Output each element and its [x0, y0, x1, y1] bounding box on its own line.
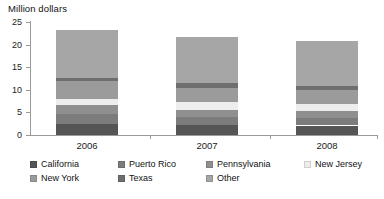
y-axis-tick [26, 67, 30, 68]
bar-segment-new-york [296, 90, 358, 104]
bar-segment-other [296, 41, 358, 86]
y-axis-tick [26, 135, 30, 136]
legend-label: Other [217, 173, 240, 183]
y-axis-tick-label: 0 [0, 130, 22, 140]
x-axis-category-label: 2006 [56, 140, 118, 151]
bar-segment-texas [56, 78, 118, 82]
bar-segment-new-york [176, 88, 238, 102]
legend-swatch-icon [304, 161, 311, 168]
y-axis-tick [26, 45, 30, 46]
bar-segment-new-jersey [176, 102, 238, 110]
bar-segment-puerto-rico [56, 114, 118, 124]
bar-segment-puerto-rico [296, 118, 358, 126]
bar-segment-new-jersey [56, 99, 118, 105]
legend-item-new-jersey[interactable]: New Jersey [304, 157, 380, 171]
bar-segment-california [296, 126, 358, 135]
bar-segment-other [176, 37, 238, 84]
y-axis-line [30, 21, 31, 136]
stacked-bar-chart: Million dollars 2520151050 200620072008 … [0, 0, 384, 199]
legend-item-puerto-rico[interactable]: Puerto Rico [118, 157, 206, 171]
bar-segment-texas [296, 86, 358, 90]
legend-label: California [41, 159, 79, 169]
bar-segment-pennsylvania [296, 111, 358, 118]
legend-item-texas[interactable]: Texas [118, 171, 206, 185]
chart-legend: CaliforniaPuerto RicoPennsylvaniaNew Jer… [30, 157, 380, 185]
legend-swatch-icon [206, 175, 213, 182]
legend-label: Puerto Rico [129, 159, 176, 169]
bar-column [176, 22, 238, 135]
legend-label: Pennsylvania [217, 159, 271, 169]
legend-label: New York [41, 173, 79, 183]
legend-swatch-icon [30, 161, 37, 168]
bar-segment-new-jersey [296, 104, 358, 110]
legend-label: Texas [129, 173, 153, 183]
y-axis-tick-label: 5 [0, 107, 22, 117]
bar-segment-other [56, 30, 118, 78]
bar-segment-pennsylvania [176, 110, 238, 117]
bar-segment-puerto-rico [176, 117, 238, 125]
y-axis-tick [26, 112, 30, 113]
legend-item-pennsylvania[interactable]: Pennsylvania [206, 157, 304, 171]
legend-swatch-icon [118, 161, 125, 168]
bar-segment-new-york [56, 81, 118, 99]
legend-label: New Jersey [315, 159, 362, 169]
x-axis-separator [150, 135, 151, 139]
x-axis-category-label: 2008 [296, 140, 358, 151]
y-axis-tick-label: 15 [0, 62, 22, 72]
chart-axis-title: Million dollars [8, 3, 67, 14]
legend-item-california[interactable]: California [30, 157, 118, 171]
legend-item-other[interactable]: Other [206, 171, 304, 185]
bar-segment-california [176, 125, 238, 135]
y-axis-tick-label: 10 [0, 85, 22, 95]
y-axis-tick [26, 22, 30, 23]
y-axis-tick-label: 20 [0, 40, 22, 50]
x-axis-separator [377, 135, 378, 139]
bar-segment-texas [176, 83, 238, 87]
y-axis-tick-label: 25 [0, 17, 22, 27]
legend-swatch-icon [118, 175, 125, 182]
bar-segment-pennsylvania [56, 105, 118, 114]
bar-column [56, 22, 118, 135]
legend-item-new-york[interactable]: New York [30, 171, 118, 185]
y-axis-tick [26, 90, 30, 91]
bar-column [296, 22, 358, 135]
bar-segment-california [56, 124, 118, 135]
x-axis-line [30, 135, 378, 136]
x-axis-category-label: 2007 [176, 140, 238, 151]
legend-swatch-icon [30, 175, 37, 182]
legend-swatch-icon [206, 161, 213, 168]
x-axis-separator [270, 135, 271, 139]
